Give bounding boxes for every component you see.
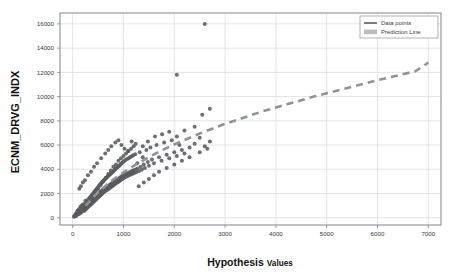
y-axis-title: ECNM_DRVG_INDX bbox=[9, 70, 21, 173]
x-tick-label: 6000 bbox=[371, 230, 385, 237]
x-tick-label: 0 bbox=[71, 230, 75, 237]
chart-canvas: 0100020003000400050006000700002000400060… bbox=[0, 0, 458, 274]
scatter-chart: 0100020003000400050006000700002000400060… bbox=[0, 0, 458, 274]
x-tick-label: 2000 bbox=[167, 230, 181, 237]
y-tick-label: 14000 bbox=[37, 44, 55, 51]
chart-legend: Data pointsPrediction Line bbox=[360, 16, 438, 38]
x-tick-label: 3000 bbox=[218, 230, 232, 237]
x-tick-label: 7000 bbox=[421, 230, 435, 237]
y-tick-label: 8000 bbox=[40, 117, 54, 124]
legend-entry-label: Prediction Line bbox=[381, 29, 421, 35]
y-tick-label: 10000 bbox=[37, 93, 55, 100]
x-tick-label: 5000 bbox=[320, 230, 334, 237]
legend-entry-label: Data points bbox=[381, 20, 411, 26]
y-tick-label: 16000 bbox=[37, 20, 55, 27]
y-tick-label: 12000 bbox=[37, 69, 55, 76]
y-tick-label: 2000 bbox=[40, 190, 54, 197]
y-tick-label: 0 bbox=[51, 214, 55, 221]
y-tick-label: 6000 bbox=[40, 141, 54, 148]
y-tick-label: 4000 bbox=[40, 165, 54, 172]
x-tick-label: 4000 bbox=[269, 230, 283, 237]
x-tick-label: 1000 bbox=[117, 230, 131, 237]
